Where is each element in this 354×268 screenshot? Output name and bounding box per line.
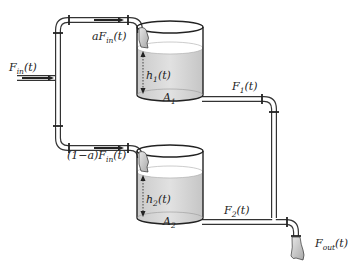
two-tank-diagram: Fin(t) aFin(t) (1−a)Fin(t) h1(t) A1 F1(t… xyxy=(0,0,354,268)
tank1-outlet-pipe xyxy=(202,94,279,222)
tank2-outflow-label: F2(t) xyxy=(223,204,249,219)
inflow-label: Fin(t) xyxy=(8,61,37,76)
tank2-outlet-pipe xyxy=(202,217,301,236)
system-outflow-label: Fout(t) xyxy=(314,237,348,252)
upper-branch-label: aFin(t) xyxy=(92,30,126,45)
tank-2 xyxy=(137,145,203,225)
tank1-level-label: h1(t) xyxy=(146,69,171,84)
tank-1 xyxy=(137,21,203,102)
tank2-level-label: h2(t) xyxy=(146,193,171,208)
tank1-outflow-label: F1(t) xyxy=(231,80,257,95)
lower-branch-label: (1−a)Fin(t) xyxy=(67,149,126,164)
outflow-stream xyxy=(291,237,304,260)
